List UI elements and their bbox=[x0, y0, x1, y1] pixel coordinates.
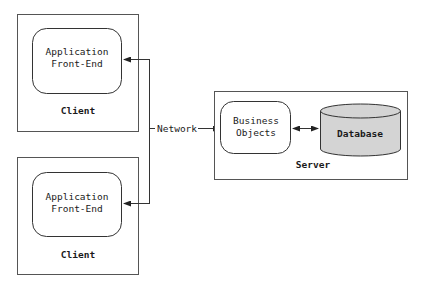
business-objects-line-1: Business bbox=[233, 115, 279, 126]
server-container: Business Objects Database Server bbox=[215, 92, 408, 180]
component-label-line-2: Front-End bbox=[51, 203, 102, 214]
application-front-end-1: Application Front-End bbox=[33, 29, 122, 94]
component-label-line-2: Front-End bbox=[51, 58, 102, 69]
server-label: Server bbox=[296, 159, 331, 170]
business-objects-line-2: Objects bbox=[236, 127, 276, 138]
client-label: Client bbox=[61, 105, 95, 116]
business-objects: Business Objects bbox=[221, 102, 291, 154]
network-label: Network bbox=[157, 123, 197, 134]
database-label: Database bbox=[337, 128, 383, 139]
client-label: Client bbox=[61, 249, 95, 260]
database-cylinder: Database bbox=[321, 104, 401, 156]
component-label-line-1: Application bbox=[46, 191, 109, 202]
architecture-diagram: Application Front-End Client Application… bbox=[0, 0, 422, 287]
component-label-line-1: Application bbox=[46, 46, 109, 57]
client-container-2: Application Front-End Client bbox=[18, 158, 139, 275]
client-container-1: Application Front-End Client bbox=[18, 15, 139, 132]
application-front-end-2: Application Front-End bbox=[33, 173, 122, 237]
